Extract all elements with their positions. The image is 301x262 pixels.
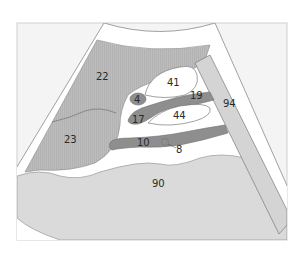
label-41: 41 <box>167 77 180 88</box>
label-22: 22 <box>96 71 109 82</box>
ultrasound-diagram: 22 23 4 17 41 19 44 10 8 94 90 <box>0 0 301 262</box>
label-8: 8 <box>176 144 182 155</box>
label-4: 4 <box>134 94 140 105</box>
region-8 <box>162 139 169 146</box>
label-19: 19 <box>190 90 203 101</box>
label-23: 23 <box>64 134 77 145</box>
label-44: 44 <box>173 110 186 121</box>
label-10: 10 <box>137 137 150 148</box>
label-17: 17 <box>132 114 145 125</box>
label-94: 94 <box>223 98 236 109</box>
label-90: 90 <box>152 178 165 189</box>
